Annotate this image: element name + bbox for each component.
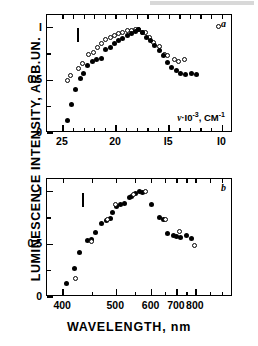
data-point-open (177, 229, 182, 234)
nu-unit: , CM (199, 112, 219, 123)
luminescence-spectra-figure: LUMINESCENCE INTENSITY, ARB.UN. a ν·I0-3… (0, 0, 258, 346)
x-tick-minor (186, 292, 187, 296)
x-tick-major (62, 125, 64, 131)
x-tick-major (151, 289, 153, 295)
data-point-open (165, 53, 170, 58)
data-point-filled (183, 72, 188, 77)
panel-b-chart: b (46, 178, 232, 296)
x-tick-label: 20 (109, 135, 121, 147)
data-point-filled (110, 210, 115, 215)
x-tick-top-minor (210, 179, 211, 183)
data-point-filled (157, 48, 162, 53)
data-point-open (192, 243, 197, 248)
x-tick-top-minor (105, 15, 106, 19)
data-point-open (73, 276, 78, 281)
y-tick-label: 0 (16, 290, 42, 302)
data-point-filled (161, 53, 166, 58)
data-point-filled (189, 71, 194, 76)
x-tick-minor (179, 128, 180, 132)
x-tick-minor (190, 128, 191, 132)
x-tick-top-minor (147, 15, 148, 19)
page-header-strip (150, 1, 254, 5)
y-tick-minor (47, 217, 51, 218)
x-tick-major (115, 125, 117, 131)
y-tick-major (47, 191, 53, 193)
y-axis-title: LUMINESCENCE INTENSITY, ARB.UN. (29, 19, 43, 299)
data-point-filled (165, 231, 170, 236)
data-point-open (76, 66, 81, 71)
y-tick-major (47, 27, 53, 29)
x-tick-top (62, 15, 63, 19)
data-point-filled (99, 221, 104, 226)
x-tick-label: I0 (217, 135, 226, 147)
x-tick-minor (135, 292, 136, 296)
y-tick-label: I (16, 185, 42, 197)
nu-unit-exponent: -1 (219, 111, 225, 118)
x-tick-minor (126, 128, 127, 132)
panel-a-chart: a ν·I0-3, CM-1 (46, 14, 232, 132)
x-tick-minor (147, 128, 148, 132)
x-tick-top-minor (92, 179, 93, 183)
data-point-open (143, 189, 148, 194)
x-tick-top-minor (158, 15, 159, 19)
x-tick-minor (200, 128, 201, 132)
x-tick-top-minor (84, 15, 85, 19)
data-point-filled (99, 56, 104, 61)
data-point-filled (73, 87, 78, 92)
panel-b-plot-area (47, 179, 231, 295)
x-tick-minor (105, 128, 106, 132)
x-tick-top-minor (165, 179, 166, 183)
data-point-filled (65, 118, 70, 123)
data-point-filled (81, 71, 86, 76)
x-tick-minor (92, 292, 93, 296)
data-point-open (99, 41, 104, 46)
error-bar (77, 28, 79, 42)
data-point-filled (94, 57, 99, 62)
x-tick-top-minor (200, 15, 201, 19)
data-point-filled (85, 63, 90, 68)
data-point-filled (93, 230, 98, 235)
x-tick-minor (84, 128, 85, 132)
x-tick-top-minor (137, 15, 138, 19)
data-point-open (182, 57, 187, 62)
data-point-open (105, 217, 110, 222)
y-tick-major (47, 296, 53, 298)
x-axis-title: WAVELENGTH, nm (0, 320, 258, 334)
x-tick-top-minor (186, 179, 187, 183)
data-point-filled (178, 71, 183, 76)
y-tick-major (47, 132, 53, 134)
x-tick-top (116, 179, 117, 183)
x-tick-minor (158, 128, 159, 132)
y-tick-label: 0 (16, 126, 42, 138)
panel-a-letter: a (221, 18, 226, 29)
x-tick-top (115, 15, 116, 19)
x-tick-label: 800 (186, 299, 204, 311)
data-point-filled (149, 202, 154, 207)
x-tick-major (62, 289, 64, 295)
y-tick-major (47, 80, 53, 82)
data-point-filled (152, 43, 157, 48)
y-tick-major (47, 244, 53, 246)
data-point-filled (178, 235, 183, 240)
x-tick-major (168, 125, 170, 131)
data-point-filled (77, 250, 82, 255)
nu-mantissa: ·I0 (181, 112, 192, 123)
y-tick-minor (47, 53, 51, 54)
x-tick-top (151, 179, 152, 183)
x-tick-label: 700 (167, 299, 185, 311)
y-tick-minor (47, 270, 51, 271)
x-tick-major (176, 289, 178, 295)
x-tick-top-minor (211, 15, 212, 19)
x-tick-major (222, 125, 224, 131)
x-tick-minor (211, 128, 212, 132)
data-point-filled (122, 201, 127, 206)
data-point-open (65, 78, 70, 83)
x-tick-major (116, 289, 118, 295)
x-tick-label: 400 (53, 299, 71, 311)
data-point-open (80, 61, 85, 66)
x-tick-top-minor (73, 15, 74, 19)
y-tick-label: 0.5 (16, 237, 42, 249)
x-tick-top-minor (94, 15, 95, 19)
data-point-open (91, 50, 96, 55)
x-tick-label: 25 (56, 135, 68, 147)
